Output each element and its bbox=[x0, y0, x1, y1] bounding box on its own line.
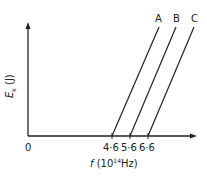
x-axis-label: f (1014Hz) bbox=[90, 157, 138, 169]
line-label-c: C bbox=[191, 14, 198, 24]
x-unit-post: Hz) bbox=[121, 158, 138, 169]
line-a bbox=[112, 27, 159, 136]
tick-label-b: 5·6 bbox=[121, 143, 137, 153]
y-subscript: k bbox=[10, 88, 17, 91]
x-unit-pre: (10 bbox=[94, 158, 114, 169]
origin-label: 0 bbox=[25, 143, 31, 153]
tick-label-a: 4·6 bbox=[103, 143, 119, 153]
y-axis-arrow-icon bbox=[26, 22, 31, 29]
y-symbol: E bbox=[4, 92, 15, 98]
line-c bbox=[148, 27, 194, 136]
y-axis-label: Ek (J) bbox=[4, 74, 17, 98]
tick-label-c: 6·6 bbox=[139, 143, 155, 153]
x-axis-arrow-icon bbox=[190, 134, 197, 139]
line-label-b: B bbox=[173, 14, 180, 24]
y-unit: (J) bbox=[4, 74, 15, 88]
line-label-a: A bbox=[155, 14, 162, 24]
x-exponent: 14 bbox=[113, 157, 121, 164]
line-b bbox=[130, 27, 176, 136]
